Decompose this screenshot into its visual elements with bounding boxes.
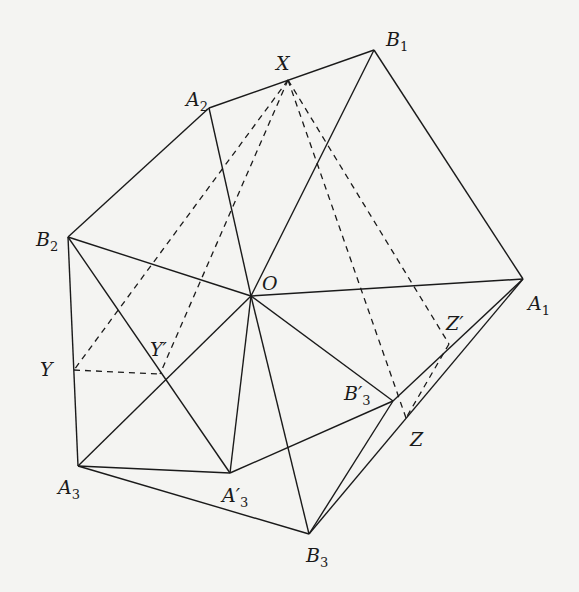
label-A3p: A′3 (220, 484, 248, 510)
label-Zp: Z′ (445, 312, 464, 334)
label-Y: Y (40, 358, 55, 380)
label-B3p: B′3 (343, 382, 371, 408)
dashed-edge-X-Zp (288, 80, 449, 344)
edge-O-A3p (230, 296, 251, 473)
edge-B2-A3p (68, 237, 230, 473)
label-B2: B2 (35, 228, 58, 254)
label-A3: A3 (56, 476, 80, 502)
edge-B3p-A1 (393, 279, 523, 401)
edge-A3-A3p (78, 466, 230, 473)
label-O: O (262, 272, 278, 294)
edge-B1-A1 (374, 50, 523, 279)
edge-A2-B2 (68, 108, 209, 237)
label-B3: B3 (305, 544, 328, 570)
edge-B3-B3p (309, 401, 393, 534)
edge-O-A1 (251, 279, 523, 296)
label-Z: Z (409, 428, 424, 450)
dashed-edge-Zp-Z (406, 344, 449, 418)
edge-O-B2 (68, 237, 251, 296)
label-Yp: Y′ (150, 338, 168, 360)
dashed-edges (74, 80, 449, 418)
edge-B3-A1 (309, 279, 523, 534)
edge-O-A3 (78, 296, 251, 466)
solid-edges (68, 50, 523, 534)
label-A2: A2 (184, 88, 208, 114)
edge-B2-A3 (68, 237, 78, 466)
point-labels: OA1A2A3A′3B1B2B3B′3XYY′ZZ′ (35, 28, 550, 570)
dashed-edge-Y-Yp (74, 370, 160, 374)
label-X: X (274, 52, 291, 74)
dashed-edge-X-Yp (160, 80, 288, 374)
label-A1: A1 (526, 292, 550, 318)
label-B1: B1 (385, 28, 408, 54)
edge-A3-B3 (78, 466, 309, 534)
geometry-diagram: OA1A2A3A′3B1B2B3B′3XYY′ZZ′ (0, 0, 579, 592)
edge-O-A2 (209, 108, 251, 296)
diagram-svg: OA1A2A3A′3B1B2B3B′3XYY′ZZ′ (0, 0, 579, 592)
